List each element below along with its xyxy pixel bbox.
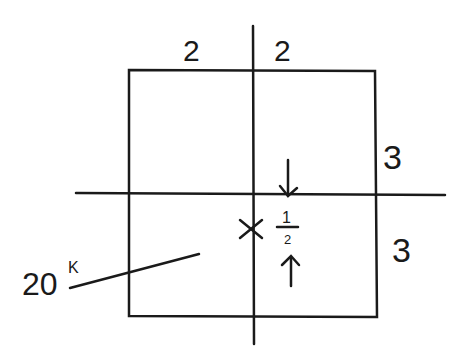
- eccentricity-numerator: 1: [282, 210, 291, 226]
- vertical-axis: [253, 26, 254, 344]
- dim-top-right: 2: [274, 36, 291, 66]
- load-unit: K: [68, 260, 79, 276]
- dim-right-lower: 3: [392, 233, 411, 267]
- dim-right-upper: 3: [383, 140, 402, 174]
- dim-top-left: 2: [183, 36, 200, 66]
- load-value: 20: [22, 268, 58, 300]
- load-leader-line: [70, 254, 199, 288]
- horizontal-axis: [76, 193, 445, 195]
- eccentricity-denominator: 2: [284, 233, 291, 246]
- diagram-lines: [0, 0, 460, 362]
- diagram-canvas: 2 2 3 3 1 2 20 K: [0, 0, 460, 362]
